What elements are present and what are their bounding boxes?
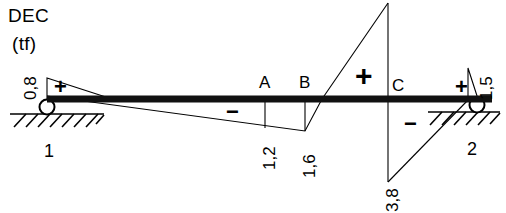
support-label-1: 1 bbox=[44, 142, 54, 160]
shear-force-diagram: DEC (tf) A B C 1 2 + − + − + 0,8 1,2 1,6… bbox=[0, 0, 506, 213]
diagram-canvas bbox=[0, 0, 506, 213]
node-label-a: A bbox=[259, 74, 270, 91]
ordinate-value-b: 1,6 bbox=[301, 154, 318, 178]
ordinate-value-c: 3,8 bbox=[384, 188, 401, 212]
ground-hatch-right bbox=[428, 112, 500, 125]
sign-plus-left: + bbox=[54, 76, 67, 98]
node-label-b: B bbox=[299, 74, 310, 91]
sign-plus-right: + bbox=[455, 76, 468, 98]
diagram-unit: (tf) bbox=[12, 34, 36, 53]
support-label-2: 2 bbox=[467, 140, 477, 158]
sign-plus-peak: + bbox=[355, 61, 373, 91]
ordinate-value-support-1: 0,8 bbox=[22, 76, 39, 100]
ground-hatch-left bbox=[10, 114, 104, 127]
diagram-title: DEC bbox=[8, 6, 49, 25]
node-label-c: C bbox=[392, 77, 404, 94]
sign-minus-right: − bbox=[404, 113, 417, 135]
ordinate-value-support-2: 1,5 bbox=[478, 76, 495, 100]
sign-minus-midspan: − bbox=[226, 101, 239, 123]
ordinate-value-a: 1,2 bbox=[261, 146, 278, 170]
